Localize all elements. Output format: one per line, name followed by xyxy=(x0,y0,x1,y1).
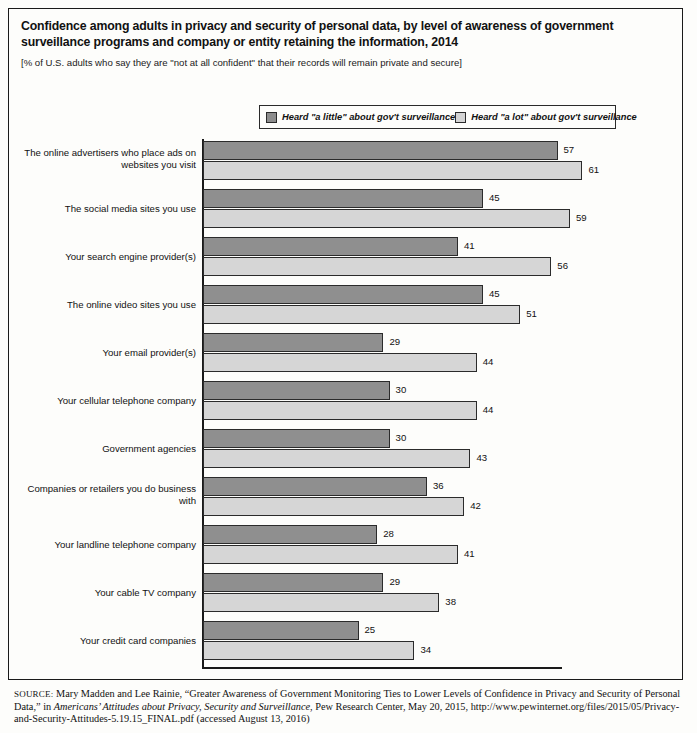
bar-value-label: 25 xyxy=(365,624,376,635)
plot-area: The online advertisers who place ads on … xyxy=(21,139,671,669)
bar-group: Your credit card companies2534 xyxy=(21,621,671,669)
category-label: Government agencies xyxy=(21,443,196,455)
bar[interactable] xyxy=(203,381,390,400)
source-prefix: SOURCE: xyxy=(14,689,53,699)
legend-label-a-lot: Heard "a lot" about gov't surveillance xyxy=(471,112,637,122)
bar-value-label: 61 xyxy=(588,164,599,175)
bar[interactable] xyxy=(203,641,414,660)
bar-value-label: 29 xyxy=(389,576,400,587)
bar[interactable] xyxy=(203,237,458,256)
chart-frame: Confidence among adults in privacy and s… xyxy=(8,8,683,680)
category-label: The online video sites you use xyxy=(21,299,196,311)
chart-legend: Heard "a little" about gov't surveillanc… xyxy=(259,105,616,129)
bar-group: Your cellular telephone company3044 xyxy=(21,381,671,429)
source-note: SOURCE: Mary Madden and Lee Rainie, “Gre… xyxy=(14,688,682,726)
bar-value-label: 36 xyxy=(433,480,444,491)
bar[interactable] xyxy=(203,285,483,304)
bar[interactable] xyxy=(203,525,377,544)
bar-value-label: 45 xyxy=(489,192,500,203)
bar-value-label: 44 xyxy=(483,356,494,367)
bar-group: The social media sites you use4559 xyxy=(21,189,671,237)
category-label: Your email provider(s) xyxy=(21,347,196,359)
bar-value-label: 34 xyxy=(420,644,431,655)
bar-value-label: 59 xyxy=(576,212,587,223)
bar[interactable] xyxy=(203,141,558,160)
bar[interactable] xyxy=(203,401,477,420)
bar-value-label: 44 xyxy=(483,404,494,415)
category-label: Your cable TV company xyxy=(21,587,196,599)
bar[interactable] xyxy=(203,477,427,496)
bar-group: The online video sites you use4551 xyxy=(21,285,671,333)
category-label: Companies or retailers you do business w… xyxy=(21,483,196,506)
bar-value-label: 38 xyxy=(445,596,456,607)
bar-value-label: 30 xyxy=(396,384,407,395)
bar[interactable] xyxy=(203,161,582,180)
bar-group: The online advertisers who place ads on … xyxy=(21,141,671,189)
category-label: Your credit card companies xyxy=(21,635,196,647)
source-publication-title: Americans’ Attitudes about Privacy, Secu… xyxy=(54,701,310,712)
bar[interactable] xyxy=(203,333,383,352)
chart-subtitle: [% of U.S. adults who say they are "not … xyxy=(21,57,669,69)
bar[interactable] xyxy=(203,257,551,276)
bar-value-label: 41 xyxy=(464,240,475,251)
bar[interactable] xyxy=(203,305,520,324)
bar-group: Companies or retailers you do business w… xyxy=(21,477,671,525)
bar-value-label: 56 xyxy=(557,260,568,271)
bar[interactable] xyxy=(203,573,383,592)
bar[interactable] xyxy=(203,593,439,612)
legend-item-a-little: Heard "a little" about gov't surveillanc… xyxy=(266,112,455,123)
category-label: The social media sites you use xyxy=(21,203,196,215)
category-label: The online advertisers who place ads on … xyxy=(21,147,196,170)
category-label: Your search engine provider(s) xyxy=(21,251,196,263)
legend-swatch-icon-a-lot xyxy=(455,112,466,123)
bar-value-label: 45 xyxy=(489,288,500,299)
bar-value-label: 42 xyxy=(470,500,481,511)
bar[interactable] xyxy=(203,621,359,640)
bar[interactable] xyxy=(203,497,464,516)
chart-title: Confidence among adults in privacy and s… xyxy=(21,19,669,50)
bar[interactable] xyxy=(203,449,470,468)
legend-swatch-icon-a-little xyxy=(266,112,277,123)
bar[interactable] xyxy=(203,353,477,372)
legend-item-a-lot: Heard "a lot" about gov't surveillance xyxy=(455,112,637,123)
bar-value-label: 28 xyxy=(383,528,394,539)
bar-value-label: 43 xyxy=(476,452,487,463)
bar-group: Your landline telephone company2841 xyxy=(21,525,671,573)
bar-value-label: 51 xyxy=(526,308,537,319)
bar[interactable] xyxy=(203,429,390,448)
bar-value-label: 30 xyxy=(396,432,407,443)
bar[interactable] xyxy=(203,545,458,564)
bar-group: Your search engine provider(s)4156 xyxy=(21,237,671,285)
legend-label-a-little: Heard "a little" about gov't surveillanc… xyxy=(282,112,455,122)
bar-value-label: 41 xyxy=(464,548,475,559)
bar-value-label: 57 xyxy=(564,144,575,155)
bar-group: Government agencies3043 xyxy=(21,429,671,477)
bar[interactable] xyxy=(203,209,570,228)
bar-group: Your email provider(s)2944 xyxy=(21,333,671,381)
bar-value-label: 29 xyxy=(389,336,400,347)
category-label: Your cellular telephone company xyxy=(21,395,196,407)
category-label: Your landline telephone company xyxy=(21,539,196,551)
bar-group: Your cable TV company2938 xyxy=(21,573,671,621)
bar[interactable] xyxy=(203,189,483,208)
